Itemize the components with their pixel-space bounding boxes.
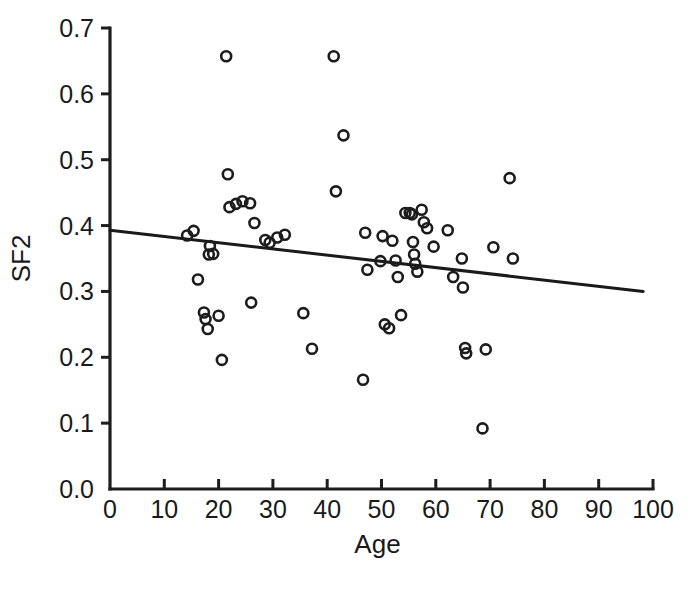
plot-canvas: 0.00.10.20.30.40.50.60.7 010203040506070… [0, 0, 692, 592]
x-tick-label: 50 [368, 495, 396, 523]
data-points [182, 51, 518, 433]
data-point-marker [203, 324, 213, 334]
x-axis-title: Age [354, 529, 400, 559]
data-point-marker [307, 344, 317, 354]
x-tick-label: 100 [632, 495, 674, 523]
x-axis: 0102030405060708090100 [103, 479, 674, 523]
data-point-marker [201, 314, 211, 324]
data-point-marker [505, 173, 515, 183]
data-point-marker [508, 254, 518, 264]
data-point-marker [217, 355, 227, 365]
data-point-marker [358, 375, 368, 385]
y-tick-label: 0.4 [59, 212, 94, 240]
y-axis-title: SF2 [6, 235, 36, 283]
data-point-marker [329, 51, 339, 61]
data-point-marker [193, 275, 203, 285]
data-point-marker [249, 218, 259, 228]
y-tick-label: 0.0 [59, 475, 94, 503]
data-point-marker [221, 51, 231, 61]
data-point-marker [223, 169, 233, 179]
y-tick-label: 0.6 [59, 80, 94, 108]
data-point-marker [417, 205, 427, 215]
data-point-marker [360, 228, 370, 238]
y-tick-label: 0.1 [59, 409, 94, 437]
data-point-marker [443, 225, 453, 235]
x-tick-label: 80 [530, 495, 558, 523]
data-point-marker [331, 186, 341, 196]
x-tick-label: 70 [476, 495, 504, 523]
data-point-marker [429, 242, 439, 252]
data-point-marker [396, 310, 406, 320]
data-point-marker [488, 242, 498, 252]
data-point-marker [393, 272, 403, 282]
data-point-marker [458, 282, 468, 292]
x-tick-label: 40 [313, 495, 341, 523]
y-tick-label: 0.7 [59, 14, 94, 42]
x-tick-label: 90 [585, 495, 613, 523]
x-tick-label: 60 [422, 495, 450, 523]
data-point-marker [378, 231, 388, 241]
data-point-marker [338, 130, 348, 140]
data-point-marker [387, 236, 397, 246]
data-point-marker [362, 265, 372, 275]
x-tick-label: 20 [205, 495, 233, 523]
data-point-marker [214, 311, 224, 321]
data-point-marker [457, 254, 467, 264]
data-point-marker [298, 308, 308, 318]
y-tick-label: 0.3 [59, 277, 94, 305]
x-tick-label: 10 [150, 495, 178, 523]
scatter-plot-figure: 0.00.10.20.30.40.50.60.7 010203040506070… [0, 0, 692, 592]
data-point-marker [408, 237, 418, 247]
x-tick-label: 30 [259, 495, 287, 523]
data-point-marker [481, 344, 491, 354]
data-point-marker [246, 298, 256, 308]
x-tick-label: 0 [103, 495, 117, 523]
y-axis: 0.00.10.20.30.40.50.60.7 [59, 14, 110, 503]
y-tick-label: 0.2 [59, 343, 94, 371]
data-point-marker [477, 423, 487, 433]
data-point-marker [448, 272, 458, 282]
y-tick-label: 0.5 [59, 146, 94, 174]
clipped-caption [0, 578, 692, 592]
